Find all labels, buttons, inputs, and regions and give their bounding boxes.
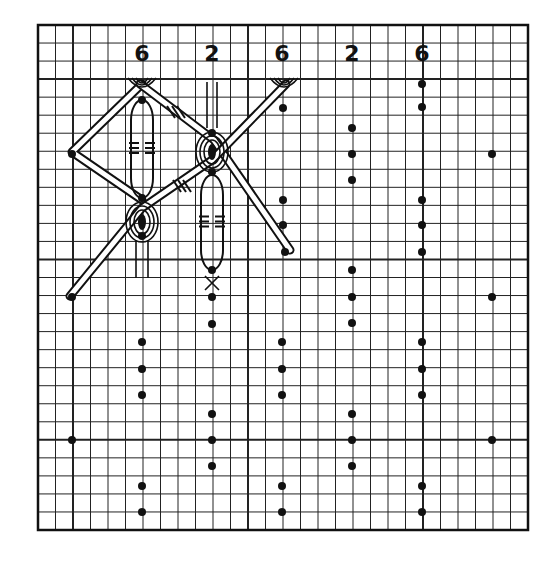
pair-count-label: 6 — [274, 43, 289, 65]
pin-dot — [138, 508, 146, 516]
pin-dot — [208, 462, 216, 470]
knot-center — [208, 144, 216, 160]
pin-dot — [348, 410, 356, 418]
pin-dot — [418, 80, 426, 88]
pin-dot — [418, 508, 426, 516]
pin-dot — [348, 266, 356, 274]
pin-dot — [348, 124, 356, 132]
pin-dot — [138, 96, 146, 104]
pair-count-label: 6 — [134, 43, 149, 65]
pin-dot — [348, 293, 356, 301]
pin-dot — [418, 391, 426, 399]
pin-dot — [418, 221, 426, 229]
pin-dot — [68, 293, 76, 301]
pin-dot — [208, 293, 216, 301]
pin-dot — [279, 196, 287, 204]
pair-count-label: 2 — [204, 43, 219, 65]
pin-dot — [278, 508, 286, 516]
pin-dot — [208, 320, 216, 328]
pin-dot — [208, 436, 216, 444]
pin-dot — [348, 319, 356, 327]
pair-count-label: 6 — [414, 43, 429, 65]
pin-dot — [278, 482, 286, 490]
pin-dot — [279, 104, 287, 112]
pin-dot — [138, 338, 146, 346]
pin-dot — [279, 221, 287, 229]
pin-dot — [278, 365, 286, 373]
pin-dot — [418, 196, 426, 204]
pin-dot — [138, 232, 146, 240]
pin-dot — [208, 410, 216, 418]
pin-dot — [348, 176, 356, 184]
lace-pricking-diagram — [0, 0, 547, 582]
pin-dot — [488, 436, 496, 444]
pin-dot — [208, 168, 216, 176]
pin-dot — [418, 248, 426, 256]
knot-center — [138, 214, 146, 230]
pin-dot — [281, 248, 289, 256]
pair-count-label: 2 — [344, 43, 359, 65]
pin-dot — [68, 150, 76, 158]
pin-dot — [278, 391, 286, 399]
pin-dot — [418, 365, 426, 373]
pin-dot — [488, 150, 496, 158]
pin-dot — [68, 436, 76, 444]
pin-dot — [208, 129, 216, 137]
pin-dot — [138, 365, 146, 373]
pin-dot — [278, 338, 286, 346]
pin-dot — [138, 194, 146, 202]
pin-dot — [488, 293, 496, 301]
pin-dot — [418, 482, 426, 490]
paper-background — [0, 0, 547, 582]
pin-dot — [138, 482, 146, 490]
pin-dot — [348, 150, 356, 158]
pin-dot — [348, 462, 356, 470]
pin-dot — [418, 338, 426, 346]
pin-dot — [208, 266, 216, 274]
pin-dot — [348, 436, 356, 444]
pin-dot — [138, 391, 146, 399]
pin-dot — [418, 103, 426, 111]
